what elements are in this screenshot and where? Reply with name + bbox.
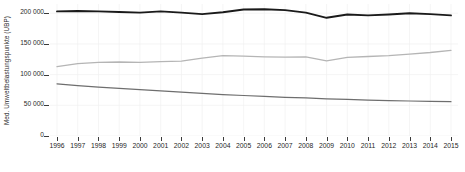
y-axis-label-text: Med. Umweltbelastungspunkte (UBP) [4, 15, 11, 124]
line-series-middle [57, 50, 451, 66]
x-axis-tick-mark [57, 137, 58, 141]
y-axis-tick-mark [44, 136, 49, 137]
plot-svg [50, 4, 458, 136]
x-axis-tick-label: 2012 [381, 143, 396, 150]
x-axis-tick-mark [140, 137, 141, 141]
x-axis-tick-mark [223, 137, 224, 141]
plot-area [50, 4, 458, 136]
y-axis-tick-mark [44, 13, 49, 14]
x-axis-tick-label: 2002 [174, 143, 189, 150]
y-axis-tick-mark [44, 75, 49, 76]
x-axis-tick-label: 1998 [91, 143, 106, 150]
x-axis-tick-mark [347, 137, 348, 141]
chart-container: Med. Umweltbelastungspunkte (UBP) 050 00… [0, 0, 465, 172]
x-axis-tick-label: 2003 [195, 143, 210, 150]
x-axis-tick-label: 2004 [215, 143, 230, 150]
grid-lines [50, 4, 458, 136]
x-axis-tick-labels: 1996199719981999200020012002200320042005… [50, 143, 458, 157]
x-axis-tick-label: 2010 [340, 143, 355, 150]
y-axis-tick-labels: 050 000100 000150 000200 000 [12, 0, 44, 140]
x-axis-tick-label: 1996 [49, 143, 64, 150]
x-axis-tick-label: 2001 [153, 143, 168, 150]
x-axis-tick-mark [285, 137, 286, 141]
x-axis-tick-label: 2008 [298, 143, 313, 150]
x-axis-tick-label: 2007 [278, 143, 293, 150]
x-axis-tick-label: 1999 [112, 143, 127, 150]
y-axis-tick-mark [44, 105, 49, 106]
x-axis-tick-label: 1997 [70, 143, 85, 150]
x-axis-tick-label: 2006 [257, 143, 272, 150]
x-axis-tick-mark [181, 137, 182, 141]
x-axis-tick-mark [161, 137, 162, 141]
x-axis-tick-mark [327, 137, 328, 141]
x-axis-tick-label: 2014 [423, 143, 438, 150]
x-axis-tick-label: 2015 [443, 143, 458, 150]
x-axis-tick-mark [119, 137, 120, 141]
y-axis-tick-label: 150 000 [20, 40, 44, 47]
x-axis-tick-label: 2011 [361, 143, 376, 150]
y-axis-tick-label: 200 000 [20, 9, 44, 16]
x-axis-tick-label: 2000 [132, 143, 147, 150]
x-axis-tick-mark [368, 137, 369, 141]
x-axis-tick-mark [430, 137, 431, 141]
x-axis-tick-mark [389, 137, 390, 141]
y-axis-tick-label: 50 000 [24, 101, 44, 108]
x-axis-tick-mark [306, 137, 307, 141]
x-axis-tick-label: 2013 [402, 143, 417, 150]
x-axis-tick-mark [410, 137, 411, 141]
x-axis-tick-mark [202, 137, 203, 141]
x-axis-tick-label: 2009 [319, 143, 334, 150]
x-axis-tick-label: 2005 [236, 143, 251, 150]
y-axis-tick-mark [44, 44, 49, 45]
y-axis-tick-label: 100 000 [20, 71, 44, 78]
x-axis-tick-mark [264, 137, 265, 141]
x-axis-tick-mark [244, 137, 245, 141]
x-axis-tick-mark [98, 137, 99, 141]
line-series-bottom [57, 84, 451, 102]
x-axis-tick-mark [451, 137, 452, 141]
x-axis-tick-mark [78, 137, 79, 141]
